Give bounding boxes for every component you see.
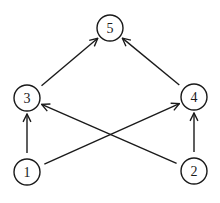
- node-label: 5: [107, 21, 114, 36]
- node-1: 1: [14, 159, 40, 185]
- node-2: 2: [181, 158, 207, 184]
- graph-canvas: 12345: [0, 0, 220, 203]
- node-label: 2: [191, 164, 198, 179]
- node-label: 4: [191, 90, 198, 105]
- nodes-group: 12345: [14, 15, 207, 185]
- edge-3-to-5-arrow: [42, 38, 98, 85]
- edges-group: [27, 38, 194, 164]
- node-5: 5: [97, 15, 123, 41]
- node-label: 1: [24, 165, 31, 180]
- node-4: 4: [181, 84, 207, 110]
- node-3: 3: [14, 85, 40, 111]
- node-label: 3: [24, 91, 31, 106]
- edge-4-to-5-arrow: [122, 38, 179, 85]
